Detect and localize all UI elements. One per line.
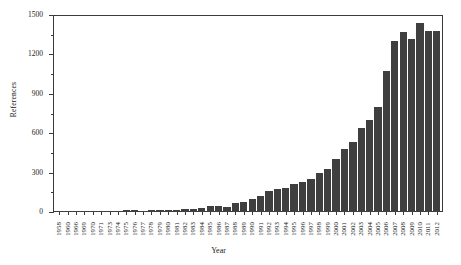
bar bbox=[274, 189, 281, 212]
bar bbox=[316, 173, 323, 212]
x-tick-label: 1998 bbox=[315, 216, 323, 246]
bar bbox=[383, 71, 390, 212]
y-tick-label: 600 bbox=[32, 129, 43, 137]
bar bbox=[425, 31, 432, 212]
x-tick-label: 2001 bbox=[340, 216, 348, 246]
bar bbox=[232, 203, 239, 212]
bar bbox=[332, 159, 339, 212]
x-tick-label: 1969 bbox=[80, 216, 88, 246]
x-tick-label: 1986 bbox=[214, 216, 222, 246]
x-tick-label: 2003 bbox=[357, 216, 365, 246]
x-axis-labels: 1958196019661969197019711973197419751976… bbox=[54, 216, 442, 246]
x-axis-title: Year bbox=[211, 246, 226, 255]
x-tick-label: 2008 bbox=[399, 216, 407, 246]
bar bbox=[408, 39, 415, 212]
x-tick-label: 1996 bbox=[298, 216, 306, 246]
bar bbox=[249, 199, 256, 212]
x-tick-label: 1973 bbox=[105, 216, 113, 246]
x-axis-title-wrap: Year bbox=[0, 246, 461, 255]
bar bbox=[324, 169, 331, 212]
bar bbox=[282, 188, 289, 212]
y-axis: 030060090012001500 bbox=[0, 0, 53, 265]
bar bbox=[299, 182, 306, 212]
y-tick-label: 900 bbox=[32, 90, 43, 98]
x-tick-label: 1958 bbox=[55, 216, 63, 246]
x-tick-label: 1993 bbox=[273, 216, 281, 246]
bar bbox=[374, 107, 381, 212]
bar bbox=[290, 184, 297, 212]
bar bbox=[265, 191, 272, 212]
bar bbox=[257, 196, 264, 212]
x-tick-label: 2011 bbox=[424, 216, 432, 246]
x-tick-label: 1983 bbox=[189, 216, 197, 246]
y-tick-label: 0 bbox=[39, 208, 43, 216]
bar bbox=[341, 149, 348, 212]
x-tick-label: 1981 bbox=[172, 216, 180, 246]
y-tick-label: 1500 bbox=[28, 11, 43, 19]
x-tick-label: 2009 bbox=[407, 216, 415, 246]
x-tick-label: 1980 bbox=[164, 216, 172, 246]
bar bbox=[349, 142, 356, 212]
bar bbox=[433, 31, 440, 212]
x-tick-label: 1991 bbox=[256, 216, 264, 246]
bar bbox=[391, 41, 398, 212]
x-tick-label: 1985 bbox=[206, 216, 214, 246]
bar bbox=[307, 179, 314, 212]
x-tick-label: 1971 bbox=[97, 216, 105, 246]
x-tick-label: 1995 bbox=[290, 216, 298, 246]
x-tick-label: 2006 bbox=[382, 216, 390, 246]
bar bbox=[358, 128, 365, 212]
x-tick-label: 2012 bbox=[433, 216, 441, 246]
x-tick-label: 1978 bbox=[147, 216, 155, 246]
x-tick-label: 1990 bbox=[248, 216, 256, 246]
bar bbox=[366, 120, 373, 212]
references-per-year-bar-chart: References 030060090012001500 1958196019… bbox=[0, 0, 461, 265]
y-tick-label: 1200 bbox=[28, 51, 43, 59]
x-tick-label: 1975 bbox=[122, 216, 130, 246]
bars-container bbox=[54, 16, 442, 212]
bar bbox=[240, 202, 247, 212]
x-tick-label: 1988 bbox=[231, 216, 239, 246]
x-tick-label: 2004 bbox=[365, 216, 373, 246]
x-tick-label: 1960 bbox=[63, 216, 71, 246]
bar bbox=[416, 23, 423, 212]
y-tick-label: 300 bbox=[32, 169, 43, 177]
bar bbox=[400, 32, 407, 212]
